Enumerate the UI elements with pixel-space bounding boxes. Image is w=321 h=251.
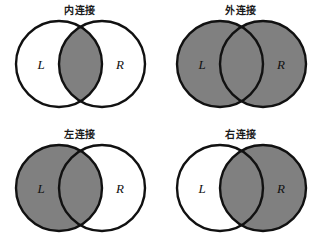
venn-diagram-right-join: 右连接 L R [161,124,321,249]
right-set-label: R [115,181,124,196]
left-set-label: L [197,57,205,72]
venn-svg-outer-join: L R [169,14,314,114]
right-set-label: R [115,57,124,72]
left-set-label: L [36,181,44,196]
right-set-label: R [276,181,285,196]
venn-diagram-left-join: 左连接 L R [0,124,160,249]
venn-svg-left-join: L R [8,138,153,238]
left-set-label: L [197,181,205,196]
venn-diagram-outer-join: 外连接 L R [161,0,321,125]
venn-diagram-inner-join: 内连接 L R [0,0,160,125]
sql-join-venn-figure: 内连接 L R 外连接 [0,0,321,251]
left-set-label: L [36,57,44,72]
venn-svg-inner-join: L R [8,14,153,114]
right-set-label: R [276,57,285,72]
venn-svg-right-join: L R [169,138,314,238]
